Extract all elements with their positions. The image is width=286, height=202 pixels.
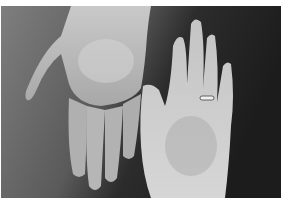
ring [200,96,214,100]
photo [1,6,281,198]
photo-canvas [1,6,281,198]
